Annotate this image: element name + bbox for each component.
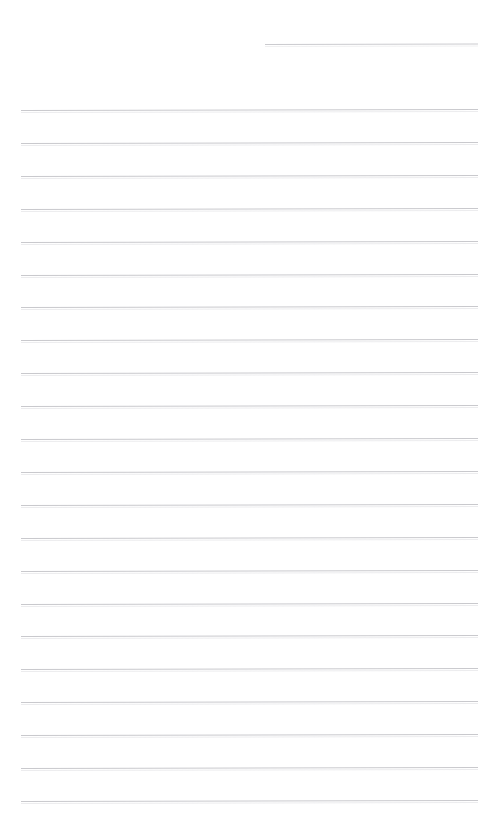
ruled-line bbox=[21, 142, 478, 144]
ruled-line bbox=[21, 767, 478, 769]
ruled-line bbox=[21, 241, 478, 243]
ruled-line bbox=[21, 701, 478, 703]
ruled-line bbox=[21, 339, 478, 341]
ruled-line bbox=[21, 109, 478, 111]
ruled-line bbox=[21, 471, 478, 473]
document-page bbox=[0, 0, 498, 826]
ruled-line bbox=[21, 274, 478, 276]
ruled-line bbox=[21, 372, 478, 374]
ruled-line bbox=[21, 570, 478, 572]
ruled-line bbox=[21, 800, 478, 802]
ruled-line bbox=[21, 175, 478, 177]
header-rule bbox=[265, 44, 478, 45]
ruled-line bbox=[21, 734, 478, 736]
ruled-line bbox=[21, 504, 478, 506]
ruled-line bbox=[21, 438, 478, 440]
ruled-line bbox=[21, 603, 478, 605]
ruled-line bbox=[21, 537, 478, 539]
ruled-line bbox=[21, 306, 478, 308]
ruled-line bbox=[21, 405, 478, 407]
ruled-line bbox=[21, 208, 478, 210]
ruled-line bbox=[21, 635, 478, 637]
ruled-line bbox=[21, 668, 478, 670]
